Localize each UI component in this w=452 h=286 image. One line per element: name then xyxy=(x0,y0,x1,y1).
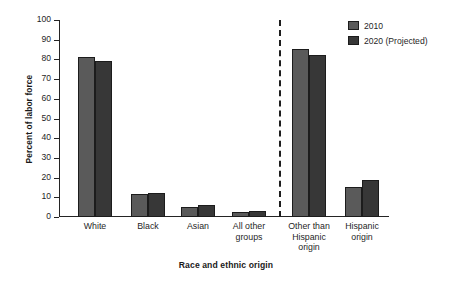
y-axis-tick: 30 xyxy=(54,158,59,159)
bar-group xyxy=(345,20,379,217)
bar-chart: Percent of labor force 01020304050607080… xyxy=(0,0,452,286)
y-axis-tick-label: 90 xyxy=(27,34,51,44)
legend-item[interactable]: 2010 xyxy=(348,18,428,33)
y-axis-tick: 80 xyxy=(54,59,59,60)
y-axis-tick: 60 xyxy=(54,99,59,100)
bar xyxy=(181,207,198,217)
bar xyxy=(198,205,215,217)
bar xyxy=(95,61,112,217)
y-axis-tick-label: 10 xyxy=(27,191,51,201)
bar xyxy=(131,194,148,217)
bar xyxy=(232,212,249,217)
y-axis-tick-label: 70 xyxy=(27,73,51,83)
y-axis-tick: 10 xyxy=(54,197,59,198)
legend-label: 2020 (Projected) xyxy=(364,36,428,46)
legend-swatch-icon xyxy=(348,21,359,30)
bar-group xyxy=(181,20,215,217)
bar xyxy=(362,180,379,217)
bar xyxy=(78,57,95,217)
y-axis-tick-label: 0 xyxy=(27,211,51,221)
y-axis-tick-label: 80 xyxy=(27,53,51,63)
bar xyxy=(249,211,266,217)
y-axis-tick-label: 30 xyxy=(27,152,51,162)
legend-label: 2010 xyxy=(364,21,383,31)
legend-swatch-icon xyxy=(348,36,359,45)
bar-group xyxy=(131,20,165,217)
y-axis-tick-label: 100 xyxy=(27,14,51,24)
section-divider xyxy=(279,20,281,217)
x-axis-category-label: Hispanic origin xyxy=(322,221,402,242)
bar-group xyxy=(292,20,326,217)
y-axis-tick-label: 50 xyxy=(27,113,51,123)
bar xyxy=(292,49,309,217)
bar-group xyxy=(232,20,266,217)
y-axis-tick: 70 xyxy=(54,79,59,80)
bar xyxy=(345,187,362,217)
plot-area: 0102030405060708090100 xyxy=(59,20,389,217)
y-axis-tick-label: 40 xyxy=(27,132,51,142)
y-axis-tick: 90 xyxy=(54,40,59,41)
y-axis-tick: 50 xyxy=(54,119,59,120)
y-axis-tick: 100 xyxy=(54,20,59,21)
bar-group xyxy=(78,20,112,217)
y-axis-tick: 40 xyxy=(54,138,59,139)
bar xyxy=(309,55,326,217)
y-axis-tick: 0 xyxy=(54,217,59,218)
y-axis-tick-label: 60 xyxy=(27,93,51,103)
y-axis-tick: 20 xyxy=(54,178,59,179)
y-axis-tick-label: 20 xyxy=(27,172,51,182)
legend-item[interactable]: 2020 (Projected) xyxy=(348,33,428,48)
bar xyxy=(148,193,165,217)
y-axis-line xyxy=(59,20,60,217)
x-axis-title: Race and ethnic origin xyxy=(0,260,452,270)
legend: 20102020 (Projected) xyxy=(348,18,428,48)
